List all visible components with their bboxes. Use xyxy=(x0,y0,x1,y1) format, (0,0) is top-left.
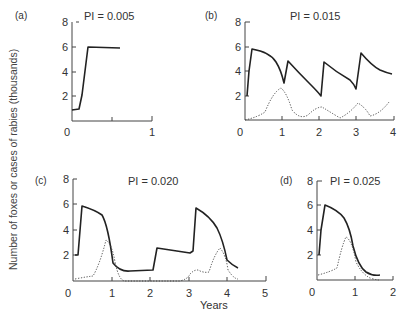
svg-text:4: 4 xyxy=(63,224,69,236)
svg-text:2: 2 xyxy=(63,249,69,261)
panel-b-label: (b) xyxy=(205,10,217,21)
svg-text:5: 5 xyxy=(262,287,268,299)
svg-text:6: 6 xyxy=(63,198,69,210)
svg-text:2: 2 xyxy=(307,249,313,261)
svg-text:1: 1 xyxy=(109,287,115,299)
panel-a-fox-line xyxy=(72,47,120,110)
svg-text:3: 3 xyxy=(186,287,192,299)
panel-d-pi: PI = 0.025 xyxy=(330,175,380,187)
panel-d-axes xyxy=(317,181,393,280)
panel-b: (b) PI = 0.015 8 6 4 2 0 1 2 3 4 xyxy=(205,10,396,138)
svg-text:4: 4 xyxy=(390,126,396,138)
panel-b-rabies-line xyxy=(245,88,389,120)
panel-a: (a) PI = 0.005 8 6 4 2 0 1 xyxy=(15,10,155,138)
svg-text:2: 2 xyxy=(62,90,68,102)
svg-text:2: 2 xyxy=(235,90,241,102)
x-axis-label: Years xyxy=(200,299,228,311)
panel-c-pi: PI = 0.020 xyxy=(128,175,178,187)
panel-b-pi: PI = 0.015 xyxy=(290,10,340,22)
figure: Number of foxes or cases of rabies (thou… xyxy=(0,0,414,317)
svg-text:3: 3 xyxy=(353,126,359,138)
svg-text:8: 8 xyxy=(62,16,68,28)
y-axis-label: Number of foxes or cases of rabies (thou… xyxy=(7,49,19,270)
svg-text:4: 4 xyxy=(62,66,68,78)
svg-text:1: 1 xyxy=(149,126,155,138)
svg-text:6: 6 xyxy=(307,199,313,211)
svg-text:8: 8 xyxy=(63,173,69,185)
svg-text:0: 0 xyxy=(237,126,243,138)
svg-text:6: 6 xyxy=(62,41,68,53)
panel-c-label: (c) xyxy=(35,175,47,186)
panel-a-axes xyxy=(72,22,152,121)
panel-c: (c) PI = 0.020 8 6 4 2 0 1 2 3 4 5 Years xyxy=(35,173,268,311)
panel-d: (d) PI = 0.025 8 6 4 2 0 1 2 xyxy=(280,175,396,298)
svg-text:4: 4 xyxy=(235,65,241,77)
svg-text:0: 0 xyxy=(65,287,71,299)
svg-text:4: 4 xyxy=(307,224,313,236)
panel-a-label: (a) xyxy=(15,10,27,21)
svg-text:8: 8 xyxy=(307,175,313,187)
panel-d-label: (d) xyxy=(280,175,292,186)
svg-text:6: 6 xyxy=(235,41,241,53)
svg-text:0: 0 xyxy=(309,286,315,298)
panel-a-pi: PI = 0.005 xyxy=(84,10,134,22)
svg-text:2: 2 xyxy=(390,286,396,298)
svg-text:1: 1 xyxy=(279,126,285,138)
svg-text:1: 1 xyxy=(352,286,358,298)
svg-text:4: 4 xyxy=(224,287,230,299)
panel-b-fox-line xyxy=(247,49,392,96)
panel-c-axes xyxy=(73,179,266,281)
panel-d-fox-line xyxy=(319,205,380,275)
svg-text:2: 2 xyxy=(316,126,322,138)
svg-text:2: 2 xyxy=(147,287,153,299)
svg-text:8: 8 xyxy=(235,16,241,28)
svg-text:0: 0 xyxy=(64,126,70,138)
panel-c-rabies-line xyxy=(75,240,238,281)
